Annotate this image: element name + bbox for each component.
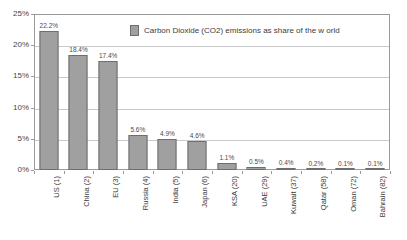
bar[interactable] (188, 141, 207, 170)
x-axis-tick-label: Russia (4) (142, 176, 150, 210)
bar[interactable] (336, 168, 355, 170)
bar[interactable] (128, 135, 147, 170)
y-axis-tick-label: 10% (13, 104, 29, 112)
x-axis-tick-label: US (1) (53, 176, 61, 198)
x-axis-tick-mark (93, 171, 94, 174)
bar-value-label: 4.9% (160, 130, 175, 137)
y-axis-tick-label: 15% (13, 72, 29, 80)
bar-slot: 0.2% (301, 14, 331, 170)
x-axis-tick-label: Oman (72) (350, 176, 358, 212)
x-axis-tick-mark (360, 171, 361, 174)
bar-value-label: 1.1% (219, 154, 234, 161)
bar-value-label: 0.2% (308, 160, 323, 167)
x-axis-tick-mark (123, 171, 124, 174)
bar-slot: 0.5% (242, 14, 272, 170)
bar[interactable] (306, 168, 325, 170)
bar-value-label: 17.4% (99, 52, 117, 59)
x-axis-tick-label: KSA (20) (231, 176, 239, 206)
bar-value-label: 0.1% (338, 160, 353, 167)
bar-value-label: 5.6% (130, 126, 145, 133)
x-axis-tick-label: EU (3) (112, 176, 120, 198)
bar-slot: 0.1% (331, 14, 361, 170)
bar-slot: 4.9% (153, 14, 183, 170)
x-axis-tick-mark (34, 171, 35, 174)
x-axis-tick-mark (242, 171, 243, 174)
bar[interactable] (366, 168, 385, 170)
x-axis-tick-label: China (2) (83, 176, 91, 207)
bar[interactable] (69, 55, 88, 170)
bar-slot: 1.1% (212, 14, 242, 170)
x-axis-tick-mark (153, 171, 154, 174)
bar[interactable] (277, 168, 296, 170)
bar-slot: 17.4% (93, 14, 123, 170)
bar[interactable] (158, 139, 177, 170)
y-axis-tick-label: 25% (13, 10, 29, 18)
bar-slot: 0.4% (271, 14, 301, 170)
y-axis-tick-label: 5% (17, 135, 29, 143)
bars-layer: 22.2%18.4%17.4%5.6%4.9%4.6%1.1%0.5%0.4%0… (34, 14, 390, 170)
x-axis-tick-label: Qatar (58) (320, 176, 328, 210)
bar-value-label: 18.4% (69, 46, 87, 53)
bar-value-label: 0.5% (249, 158, 264, 165)
chart-legend: Carbon Dioxide (CO2) emissions as share … (128, 24, 342, 37)
x-axis-tick-mark (182, 171, 183, 174)
x-axis-tick-label: India (5) (172, 176, 180, 204)
legend-swatch-icon (130, 25, 139, 36)
x-axis-tick-mark (390, 171, 391, 174)
x-axis-tick-mark (271, 171, 272, 174)
bar[interactable] (217, 163, 236, 170)
x-axis-tick-label: UAE (29) (261, 176, 269, 207)
x-axis-tick-label: Kuwait (37) (290, 176, 298, 214)
x-axis-tick-mark (212, 171, 213, 174)
bar[interactable] (99, 61, 118, 170)
bar-chart: 0%5%10%15%20%25% 22.2%18.4%17.4%5.6%4.9%… (0, 0, 407, 240)
x-axis-tick-mark (301, 171, 302, 174)
bar[interactable] (39, 31, 58, 170)
bar-value-label: 0.4% (279, 159, 294, 166)
bar-value-label: 4.6% (190, 132, 205, 139)
bar-slot: 22.2% (34, 14, 64, 170)
bar[interactable] (247, 167, 266, 170)
bar-slot: 0.1% (360, 14, 390, 170)
y-axis-tick-label: 0% (17, 166, 29, 174)
x-axis-tick-mark (64, 171, 65, 174)
x-axis-tick-label: Bahrain (82) (379, 176, 387, 217)
bar-value-label: 22.2% (40, 22, 58, 29)
x-axis: US (1)China (2)EU (3)Russia (4)India (5)… (34, 171, 390, 240)
x-axis-tick-mark (331, 171, 332, 174)
y-axis: 0%5%10%15%20%25% (0, 0, 34, 172)
x-axis-tick-label: Japan (6) (201, 176, 209, 208)
bar-slot: 5.6% (123, 14, 153, 170)
bar-slot: 4.6% (182, 14, 212, 170)
y-axis-tick-label: 20% (13, 41, 29, 49)
bar-value-label: 0.1% (368, 160, 383, 167)
bar-slot: 18.4% (64, 14, 94, 170)
legend-label: Carbon Dioxide (CO2) emissions as share … (144, 26, 340, 35)
